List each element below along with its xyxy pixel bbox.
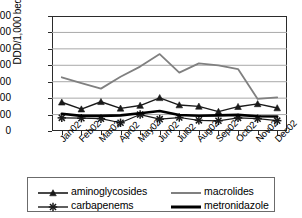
data-marker-triangle bbox=[58, 99, 65, 105]
y-tick-label: 700 bbox=[0, 11, 11, 21]
y-tick-label: 500 bbox=[0, 44, 11, 54]
legend-label: aminoglycosides bbox=[68, 186, 147, 197]
chart-legend: aminoglycosidesmacrolidescarbapenemsmetr… bbox=[27, 177, 275, 212]
y-tick-mark bbox=[48, 131, 52, 132]
data-marker-triangle bbox=[156, 95, 163, 101]
y-tick-label: 100 bbox=[0, 110, 11, 120]
chart-canvas bbox=[52, 16, 287, 131]
legend-key-aminoglycosides-icon bbox=[38, 185, 68, 197]
y-tick-label: 400 bbox=[0, 60, 11, 70]
series-macrolides bbox=[62, 54, 277, 99]
series-aminoglycosides bbox=[58, 95, 280, 115]
legend-key-metronidazole-icon bbox=[171, 199, 201, 211]
legend-label: metronidazole bbox=[201, 200, 269, 211]
legend-symbol-icon bbox=[171, 201, 201, 213]
legend-item-carbapenems[interactable]: carbapenems bbox=[38, 198, 134, 212]
y-tick-label: 600 bbox=[0, 27, 11, 37]
gridlines bbox=[52, 32, 287, 114]
legend-key-macrolides-icon bbox=[171, 185, 201, 197]
legend-key-carbapenems-icon bbox=[38, 199, 68, 211]
y-tick-label: 0 bbox=[0, 126, 11, 136]
y-tick-label: 200 bbox=[0, 93, 11, 103]
legend-symbol-icon bbox=[38, 201, 68, 213]
legend-item-metronidazole[interactable]: metronidazole bbox=[171, 198, 269, 212]
series-line-macrolides bbox=[62, 54, 277, 99]
data-marker-triangle bbox=[98, 98, 105, 104]
series-line-aminoglycosides bbox=[62, 98, 277, 112]
series-line-metronidazole bbox=[62, 111, 277, 117]
series-metronidazole bbox=[62, 111, 277, 117]
chart-figure: DDD/1,000 bed-days 700600500400300200100… bbox=[0, 0, 302, 218]
legend-label: carbapenems bbox=[68, 200, 134, 211]
y-tick-label: 300 bbox=[0, 77, 11, 87]
legend-item-aminoglycosides[interactable]: aminoglycosides bbox=[38, 184, 147, 198]
plot-area bbox=[52, 16, 287, 131]
y-axis-title: DDD/1,000 bed-days bbox=[12, 0, 23, 79]
legend-label: macrolides bbox=[201, 186, 254, 197]
legend-item-macrolides[interactable]: macrolides bbox=[171, 184, 254, 198]
